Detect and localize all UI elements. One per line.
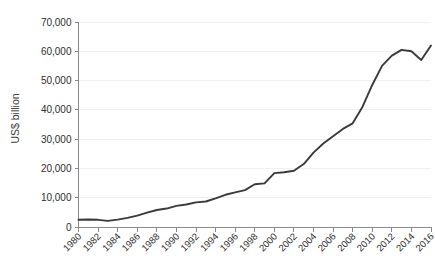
x-tick-label: 1992 xyxy=(178,231,201,254)
line-chart: 010,00020,00030,00040,00050,00060,00070,… xyxy=(0,0,435,270)
x-tick-label: 1982 xyxy=(80,231,103,254)
x-tick-label: 1998 xyxy=(237,231,260,254)
x-tick-label: 2012 xyxy=(374,231,397,254)
data-series-line xyxy=(79,45,432,220)
x-tick-label: 2010 xyxy=(354,231,377,254)
x-axis-group: 1980198219841986198819901992199419961998… xyxy=(61,227,435,253)
x-tick-label: 2002 xyxy=(276,231,299,254)
y-tick-label: 30,000 xyxy=(41,134,72,145)
x-tick-label: 1986 xyxy=(119,231,142,254)
x-tick-label: 2014 xyxy=(394,231,417,254)
y-tick-label: 0 xyxy=(66,222,72,233)
x-tick-label: 2004 xyxy=(296,231,319,254)
y-tick-label: 20,000 xyxy=(41,163,72,174)
x-tick-label: 2000 xyxy=(257,231,280,254)
x-axis-ticks: 1980198219841986198819901992199419961998… xyxy=(61,227,435,253)
y-axis-group: 010,00020,00030,00040,00050,00060,00070,… xyxy=(41,17,79,233)
y-tick-label: 10,000 xyxy=(41,192,72,203)
x-tick-label: 1984 xyxy=(100,231,123,254)
y-axis-ticks: 010,00020,00030,00040,00050,00060,00070,… xyxy=(41,17,79,233)
y-tick-label: 50,000 xyxy=(41,75,72,86)
x-tick-label: 1990 xyxy=(159,231,182,254)
x-tick-label: 1994 xyxy=(198,231,221,254)
x-tick-label: 1988 xyxy=(139,231,162,254)
y-tick-label: 70,000 xyxy=(41,17,72,28)
y-tick-label: 40,000 xyxy=(41,104,72,115)
chart-container: 010,00020,00030,00040,00050,00060,00070,… xyxy=(0,0,435,270)
y-tick-label: 60,000 xyxy=(41,46,72,57)
x-tick-label: 2008 xyxy=(335,231,358,254)
x-tick-label: 2006 xyxy=(315,231,338,254)
gridlines-group xyxy=(79,22,432,198)
x-tick-label: 2016 xyxy=(413,231,435,254)
x-tick-label: 1996 xyxy=(217,231,240,254)
y-axis-label: US$ billion xyxy=(9,93,21,143)
x-tick-label: 1980 xyxy=(61,231,84,254)
